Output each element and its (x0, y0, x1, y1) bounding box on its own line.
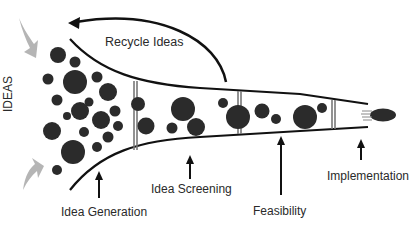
idea-funnel-diagram: Recycle Ideas IDEAS Idea Generation Idea… (0, 0, 419, 228)
idea-circles (43, 47, 328, 175)
curved-arrow-left-icon (68, 17, 226, 82)
curved-arrow-down-icon (19, 18, 38, 58)
feasibility-label: Feasibility (253, 205, 306, 217)
ideas-label: IDEAS (2, 76, 14, 112)
idea-generation-label: Idea Generation (61, 206, 147, 218)
implementation-label: Implementation (327, 170, 409, 182)
recycle-ideas-label: Recycle Ideas (105, 36, 184, 49)
idea-screening-label: Idea Screening (151, 183, 232, 195)
speeding-ellipse-icon (361, 109, 396, 122)
curved-arrow-up-icon (23, 158, 44, 190)
